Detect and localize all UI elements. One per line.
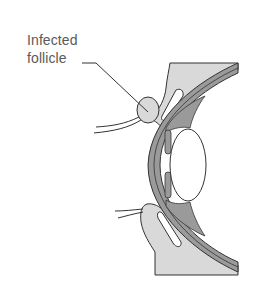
iris-lower: [165, 172, 171, 198]
eye-diagram: [0, 0, 258, 287]
infected-follicle-bulb: [137, 97, 159, 123]
upper-eyelash-1: [96, 117, 139, 127]
lower-eyelash-1: [115, 209, 143, 211]
iris-upper: [165, 130, 171, 154]
lens: [170, 129, 206, 201]
lower-eyelash-2: [118, 212, 143, 218]
